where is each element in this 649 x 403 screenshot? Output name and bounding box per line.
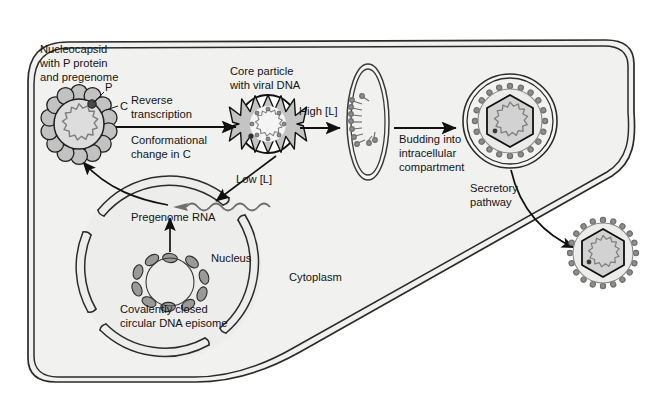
virion-p-protein-dot bbox=[493, 129, 498, 134]
nucleocapsid-label-line1: Nucleocapsid bbox=[40, 43, 107, 55]
core-p-protein-dot bbox=[248, 133, 253, 138]
reverse-transcription-label-line2: transcription bbox=[131, 108, 192, 120]
pregenome-rna-label: Pregenome RNA bbox=[131, 211, 216, 223]
budding-label-line3: compartment bbox=[399, 161, 465, 173]
low-l-label: Low [L] bbox=[236, 173, 272, 185]
core-particle bbox=[229, 95, 306, 153]
intracellular-compartment bbox=[347, 64, 389, 180]
conformational-change-label-line2: change in C bbox=[131, 148, 191, 160]
conformational-change-label-line1: Conformational bbox=[131, 134, 207, 146]
pathway-diagram-svg: Nucleocapsid with P protein and pregenom… bbox=[0, 0, 649, 403]
nucleocapsid-shell bbox=[54, 99, 104, 149]
budding-label-line1: Budding into bbox=[399, 133, 461, 145]
nucleocapsid-label-line2: with P protein bbox=[39, 57, 108, 69]
reverse-transcription-label-line1: Reverse bbox=[131, 94, 173, 106]
p-protein-label: P bbox=[105, 81, 112, 93]
episome-label-line2: circular DNA episome bbox=[120, 317, 228, 329]
budded-virion-in-compartment bbox=[463, 74, 557, 168]
released-virion-p-protein-dot bbox=[587, 260, 592, 265]
episome-label-line1: Covalently closed bbox=[120, 303, 208, 315]
core-particle-label-line1: Core particle bbox=[230, 65, 293, 77]
secretory-pathway-label-line2: pathway bbox=[470, 196, 512, 208]
released-virion bbox=[567, 217, 638, 288]
secretory-pathway-label-line1: Secretory bbox=[470, 182, 518, 194]
core-particle-label-line2: with viral DNA bbox=[229, 79, 301, 91]
diagram-canvas: Nucleocapsid with P protein and pregenom… bbox=[0, 0, 649, 403]
cytoplasm-label: Cytoplasm bbox=[289, 271, 342, 283]
c-protein-label: C bbox=[120, 100, 128, 112]
high-l-label: High [L] bbox=[299, 105, 338, 117]
nucleus-label: Nucleus bbox=[211, 252, 252, 264]
budding-label-line2: intracellular bbox=[399, 147, 456, 159]
